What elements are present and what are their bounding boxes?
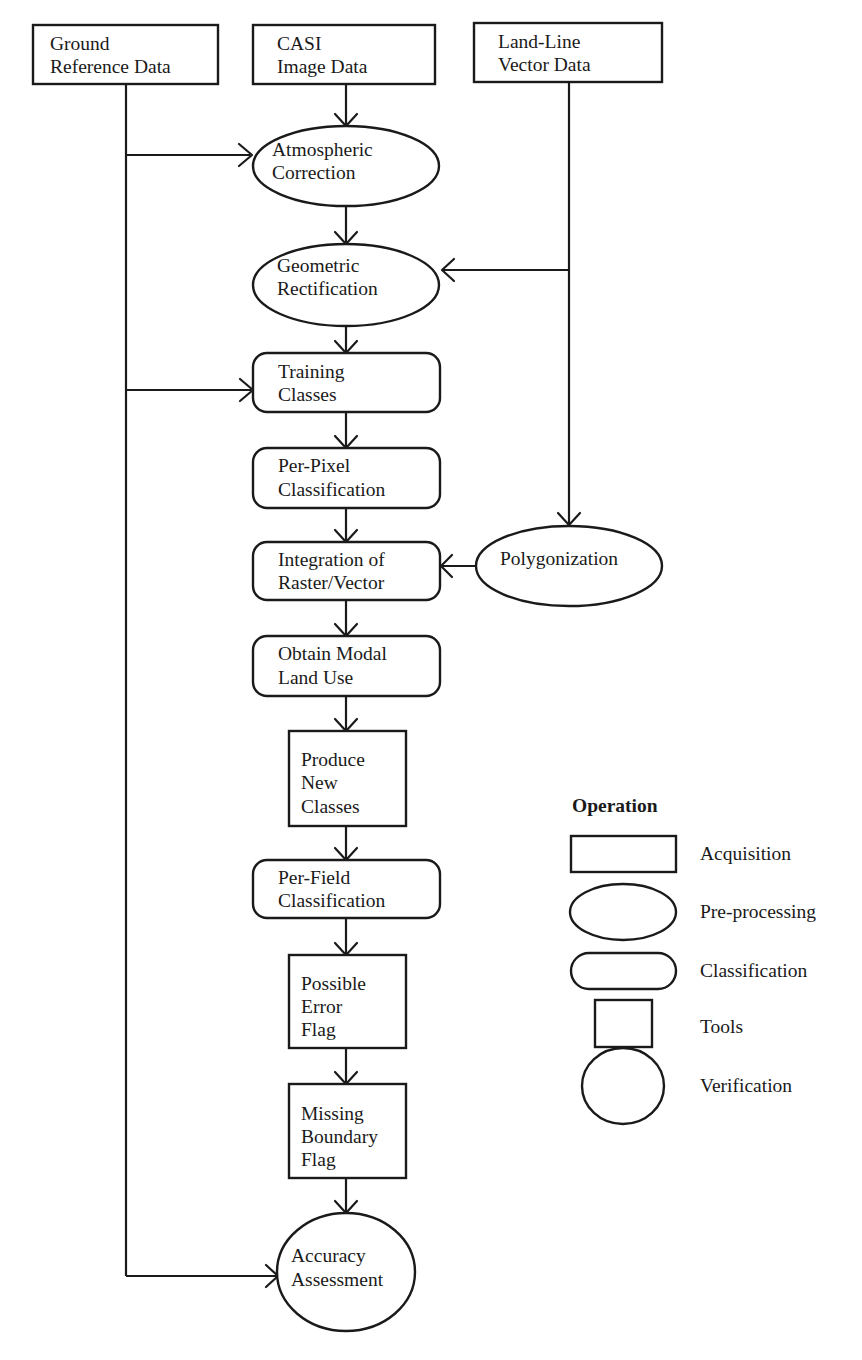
legend-item-acquisition: Acquisition <box>571 836 791 872</box>
node-label-line: Raster/Vector <box>278 572 385 593</box>
legend-label: Acquisition <box>700 843 791 864</box>
legend-label: Pre-processing <box>700 901 816 922</box>
node-per-pixel-classification[interactable]: Per-Pixel Classification <box>253 448 440 508</box>
node-possible-error-flag[interactable]: Possible Error Flag <box>289 955 406 1048</box>
node-label-line: Per-Pixel <box>278 455 351 476</box>
node-label-line: Classes <box>278 384 337 405</box>
legend: Operation Acquisition Pre-processing Cla… <box>570 795 816 1124</box>
node-label-line: Geometric <box>277 255 360 276</box>
legend-square-icon <box>595 1000 652 1047</box>
node-label-line: New <box>301 772 338 793</box>
legend-title: Operation <box>572 795 658 816</box>
legend-ellipse-icon <box>570 884 676 940</box>
node-integration-raster-vector[interactable]: Integration of Raster/Vector <box>253 542 440 600</box>
node-label-line: Accuracy <box>291 1245 366 1266</box>
node-label-line: Land Use <box>278 667 353 688</box>
node-label-line: Obtain Modal <box>278 643 387 664</box>
node-label-line: Image Data <box>277 56 368 77</box>
node-label-line: Rectification <box>277 278 378 299</box>
node-label-line: CASI <box>277 33 321 54</box>
node-label-line: Flag <box>301 1019 336 1040</box>
node-geometric-rectification[interactable]: Geometric Rectification <box>253 244 439 326</box>
node-label-line: Error <box>301 996 343 1017</box>
node-land-line-vector-data[interactable]: Land-Line Vector Data <box>474 23 662 82</box>
node-ground-reference-data[interactable]: Ground Reference Data <box>33 25 218 84</box>
node-label-line: Flag <box>301 1149 336 1170</box>
node-label-line: Missing <box>301 1103 364 1124</box>
node-label-line: Classification <box>278 479 385 500</box>
node-label-line: Reference Data <box>50 56 171 77</box>
legend-item-preprocessing: Pre-processing <box>570 884 816 940</box>
node-per-field-classification[interactable]: Per-Field Classification <box>253 860 440 918</box>
node-label-line: Polygonization <box>500 548 618 569</box>
node-label-line: Boundary <box>301 1126 378 1147</box>
node-label-line: Land-Line <box>498 31 580 52</box>
node-missing-boundary-flag[interactable]: Missing Boundary Flag <box>289 1084 406 1178</box>
flowchart-canvas: Ground Reference Data CASI Image Data La… <box>0 0 862 1360</box>
node-label-line: Per-Field <box>278 867 350 888</box>
node-atmospheric-correction[interactable]: Atmospheric Correction <box>253 126 439 206</box>
legend-circle-icon <box>582 1048 664 1124</box>
legend-item-verification: Verification <box>582 1048 792 1124</box>
legend-item-tools: Tools <box>595 1000 743 1047</box>
node-label-line: Classes <box>301 796 360 817</box>
node-label-line: Possible <box>301 973 366 994</box>
node-casi-image-data[interactable]: CASI Image Data <box>253 25 435 84</box>
node-training-classes[interactable]: Training Classes <box>253 353 440 412</box>
node-produce-new-classes[interactable]: Produce New Classes <box>289 731 406 826</box>
node-label-line: Ground <box>50 33 110 54</box>
node-label-line: Integration of <box>278 549 385 570</box>
legend-label: Classification <box>700 960 807 981</box>
node-label-line: Vector Data <box>498 54 591 75</box>
node-polygonization[interactable]: Polygonization <box>476 526 662 606</box>
node-label-line: Classification <box>278 890 385 911</box>
node-label-line: Correction <box>272 162 356 183</box>
legend-label: Verification <box>700 1075 792 1096</box>
node-label-line: Produce <box>301 749 365 770</box>
node-label-line: Training <box>278 361 345 382</box>
node-label-line: Assessment <box>291 1269 384 1290</box>
node-obtain-modal-land-use[interactable]: Obtain Modal Land Use <box>253 636 440 696</box>
legend-label: Tools <box>700 1016 743 1037</box>
legend-item-classification: Classification <box>571 953 807 989</box>
node-label-line: Atmospheric <box>272 139 373 160</box>
legend-rectangle-icon <box>571 836 676 872</box>
node-accuracy-assessment[interactable]: Accuracy Assessment <box>277 1213 415 1331</box>
legend-rounded-rect-icon <box>571 953 676 989</box>
